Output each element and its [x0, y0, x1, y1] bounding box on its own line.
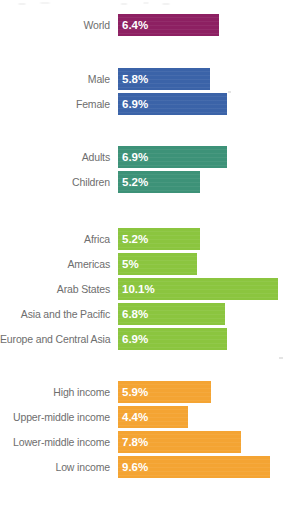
bar-row: Low income9.6% — [0, 456, 302, 478]
bar: 5% — [118, 253, 197, 275]
bar-value-label: 6.9% — [122, 328, 148, 350]
bar-row: Lower-middle income7.8% — [0, 431, 302, 453]
bar-value-label: 5.2% — [122, 228, 148, 250]
bar-row: Africa5.2% — [0, 228, 302, 250]
bar-group-age: Adults6.9%Children5.2% — [0, 146, 302, 196]
bar: 6.8% — [118, 303, 225, 325]
bar-category-label: Lower-middle income — [0, 431, 114, 453]
bar-category-label: Africa — [0, 228, 114, 250]
bar-category-label: Asia and the Pacific — [0, 303, 114, 325]
bar-value-label: 5% — [122, 253, 139, 275]
bar-value-label: 6.8% — [122, 303, 148, 325]
bar-row: Adults6.9% — [0, 146, 302, 168]
bar-category-label: Female — [0, 93, 114, 115]
bar: 6.4% — [118, 14, 219, 36]
bar-value-label: 7.8% — [122, 431, 148, 453]
bar-row: Female6.9% — [0, 93, 302, 115]
bar-value-label: 4.4% — [122, 406, 148, 428]
bar-row: High income5.9% — [0, 381, 302, 403]
scan-speck — [279, 357, 283, 359]
bar-value-label: 6.9% — [122, 146, 148, 168]
bar-group-overall: World6.4% — [0, 14, 302, 39]
bar: 9.6% — [118, 456, 270, 478]
bar-group-sex: Male5.8%Female6.9% — [0, 68, 302, 118]
bar: 5.9% — [118, 381, 211, 403]
bar-category-label: Europe and Central Asia — [0, 328, 114, 350]
bar: 7.8% — [118, 431, 241, 453]
bar-category-label: Children — [0, 171, 114, 193]
bar-category-label: Low income — [0, 456, 114, 478]
bar: 5.2% — [118, 228, 200, 250]
bar-row: Asia and the Pacific6.8% — [0, 303, 302, 325]
bar-value-label: 6.4% — [122, 14, 148, 36]
bar-category-label: World — [0, 14, 114, 36]
bar-chart: World6.4%Male5.8%Female6.9%Adults6.9%Chi… — [0, 0, 302, 517]
bar-row: Children5.2% — [0, 171, 302, 193]
bar-value-label: 5.2% — [122, 171, 148, 193]
bar-row: Arab States10.1% — [0, 278, 302, 300]
bar: 6.9% — [118, 146, 227, 168]
bar: 4.4% — [118, 406, 188, 428]
bar: 5.8% — [118, 68, 210, 90]
bar: 10.1% — [118, 278, 278, 300]
bar-row: Americas5% — [0, 253, 302, 275]
bar-value-label: 5.8% — [122, 68, 148, 90]
bar: 6.9% — [118, 328, 227, 350]
bar-value-label: 5.9% — [122, 381, 148, 403]
bar-category-label: Upper-middle income — [0, 406, 114, 428]
bar-row: World6.4% — [0, 14, 302, 36]
bar-category-label: Male — [0, 68, 114, 90]
bar-row: Upper-middle income4.4% — [0, 406, 302, 428]
bar-group-income: High income5.9%Upper-middle income4.4%Lo… — [0, 381, 302, 481]
bar-category-label: Arab States — [0, 278, 114, 300]
bar-value-label: 10.1% — [122, 278, 155, 300]
bar-row: Europe and Central Asia6.9% — [0, 328, 302, 350]
bar-group-region: Africa5.2%Americas5%Arab States10.1%Asia… — [0, 228, 302, 353]
bar-row: Male5.8% — [0, 68, 302, 90]
bar: 6.9% — [118, 93, 227, 115]
bar-value-label: 9.6% — [122, 456, 148, 478]
bar-category-label: Americas — [0, 253, 114, 275]
bar-category-label: High income — [0, 381, 114, 403]
bar-value-label: 6.9% — [122, 93, 148, 115]
bar: 5.2% — [118, 171, 200, 193]
scan-artifact — [0, 0, 302, 10]
bar-category-label: Adults — [0, 146, 114, 168]
